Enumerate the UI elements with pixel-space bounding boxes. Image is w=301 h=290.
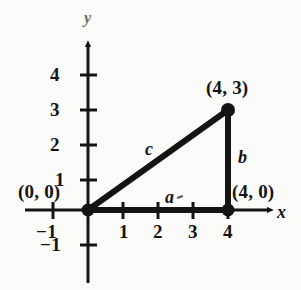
side-label-b: b: [238, 148, 247, 166]
x-tick-label-2: 2: [153, 222, 163, 241]
y-tick-label-3: 3: [50, 100, 60, 119]
coordinate-figure: 4 3 2 1 −1 −1 1 2 3 4 x y (0, 0) (4, 0) …: [0, 0, 301, 290]
triangle-shape: [88, 110, 228, 210]
point-label-origin: (0, 0): [18, 182, 60, 201]
y-tick-label-4: 4: [50, 65, 60, 84]
vertex-dot-4-3: [221, 103, 235, 117]
side-label-c: c: [145, 140, 153, 158]
x-tick-label-3: 3: [188, 222, 198, 241]
triangle-side-c: [88, 110, 228, 210]
vertex-dot-origin: [82, 204, 95, 217]
vertex-dot-4-0: [222, 204, 235, 217]
x-tick-label-4: 4: [223, 222, 233, 241]
x-axis-label: x: [277, 203, 286, 221]
x-tick-label--1: −1: [36, 222, 57, 241]
point-label-4-3: (4, 3): [206, 78, 248, 97]
y-axis-label: y: [84, 10, 91, 26]
y-tick-label-2: 2: [50, 135, 60, 154]
side-label-a: a: [165, 188, 174, 206]
x-tick-label-1: 1: [119, 222, 129, 241]
point-label-4-0: (4, 0): [232, 182, 274, 201]
